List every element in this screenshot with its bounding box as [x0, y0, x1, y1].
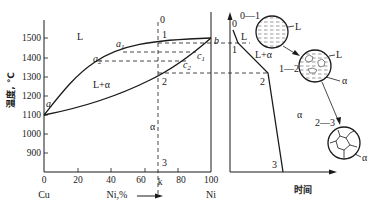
- microstructure-liquid: L 0—1: [240, 10, 301, 48]
- cu-label: Cu: [38, 189, 50, 200]
- point-a-label: a: [46, 98, 51, 109]
- solidus-curve: [44, 38, 211, 115]
- micro2-alpha-label: α: [342, 75, 348, 86]
- ni-label: Ni: [206, 189, 216, 200]
- micro2-liquid-label: L: [336, 49, 342, 60]
- point-b-label: b: [214, 35, 219, 46]
- cooling-point-0: 0: [232, 18, 237, 29]
- region-two-phase-label: L+α: [93, 79, 111, 90]
- region-liquid-label: L: [77, 31, 83, 42]
- micro3-stage-label: 2—3: [315, 117, 335, 128]
- y-tick-1500: 1500: [22, 33, 41, 43]
- x-axis-arrow-icon: [137, 194, 163, 199]
- alloy-point-1: 1: [162, 29, 167, 40]
- arrow-icon: [292, 50, 300, 56]
- microstructure-two-phase: L α 1—2: [279, 49, 348, 86]
- alloy-point-3: 3: [162, 157, 167, 168]
- cooling-two-phase-label: L+α: [255, 49, 273, 60]
- arrow-icon: [336, 117, 341, 125]
- y-tick-1200: 1200: [22, 91, 41, 101]
- cooling-point-1: 1: [232, 44, 237, 55]
- time-arrow-icon: [329, 170, 337, 175]
- cooling-solid-label: α: [297, 109, 303, 120]
- y-tick-900: 900: [27, 148, 42, 158]
- x-tick-40: 40: [106, 175, 116, 185]
- y-tick-1400: 1400: [22, 53, 41, 63]
- micro2-stage-label: 1—2: [279, 63, 299, 74]
- x-tick-0: 0: [42, 175, 47, 185]
- cooling-liquid-label: L: [241, 31, 247, 42]
- x-tick-60: 60: [136, 175, 146, 185]
- point-a1-label: a1: [116, 38, 125, 51]
- alloy-point-0: 0: [160, 14, 165, 25]
- region-solid-label: α: [150, 121, 156, 132]
- point-a2-label: a2: [93, 53, 102, 66]
- y-axis-label: 温度, ℃: [5, 72, 16, 108]
- phase-diagram-figure: 1500 1400 1300 1200 1100 1000 900 温度, ℃ …: [0, 0, 376, 215]
- x-tick-80: 80: [176, 175, 186, 185]
- micro1-liquid-label: L: [295, 21, 301, 32]
- micro3-alpha-label: α: [362, 152, 368, 163]
- alloy-point-2: 2: [162, 76, 167, 87]
- time-axis-label: 时间: [294, 184, 312, 195]
- microstructure-solid: α 2—3: [315, 117, 368, 163]
- x-axis-label: Ni,%: [107, 189, 128, 200]
- point-c1-label: c1: [197, 50, 205, 63]
- liquidus-curve: [44, 38, 211, 115]
- alloy-k-marker: k: [158, 177, 163, 187]
- x-tick-20: 20: [73, 175, 83, 185]
- x-tick-100: 100: [204, 175, 219, 185]
- cooling-point-3: 3: [272, 159, 277, 170]
- micro1-stage-label: 0—1: [240, 10, 260, 21]
- y-tick-1000: 1000: [22, 129, 41, 139]
- point-c2-label: c2: [183, 59, 191, 72]
- y-tick-1300: 1300: [22, 72, 41, 82]
- y-tick-1100: 1100: [22, 110, 41, 120]
- cooling-point-2: 2: [260, 76, 265, 87]
